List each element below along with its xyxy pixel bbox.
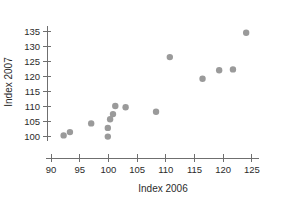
x-tick-label: 125: [244, 164, 260, 175]
x-tick-label: 100: [100, 164, 116, 175]
data-point: [122, 104, 128, 110]
data-point: [67, 129, 73, 135]
x-tick-label: 115: [187, 164, 202, 175]
data-point: [230, 66, 236, 72]
data-point: [167, 54, 173, 60]
y-axis-title: Index 2007: [3, 57, 14, 107]
y-tick-label: 115: [25, 86, 40, 97]
y-tick-label: 110: [25, 101, 40, 112]
x-tick-label: 95: [74, 164, 85, 175]
data-point: [110, 111, 116, 117]
y-tick-label: 135: [24, 26, 40, 37]
y-tick-label: 125: [24, 56, 40, 67]
x-tick-label: 120: [215, 164, 231, 175]
y-tick-label: 130: [24, 41, 40, 52]
data-point: [112, 103, 118, 109]
data-point: [153, 109, 159, 115]
data-point: [105, 133, 111, 139]
scatter-plot-figure: 9095100105110115120125 10010511011512012…: [0, 0, 305, 202]
data-point: [88, 120, 94, 126]
data-points: [60, 30, 249, 140]
data-point: [216, 67, 222, 73]
y-tick-label: 120: [24, 71, 40, 82]
x-tick-label: 90: [46, 164, 57, 175]
data-point: [199, 76, 205, 82]
x-tick-label: 105: [129, 164, 145, 175]
data-point: [60, 132, 66, 138]
y-axis: 100105110115120125130135: [24, 26, 51, 142]
x-axis-title: Index 2006: [138, 183, 188, 194]
y-tick-label: 100: [24, 131, 40, 142]
plot-canvas: 9095100105110115120125 10010511011512012…: [0, 0, 305, 202]
x-axis: 9095100105110115120125: [46, 154, 260, 175]
y-tick-label: 105: [24, 116, 40, 127]
data-point: [105, 125, 111, 131]
x-tick-label: 110: [158, 164, 173, 175]
data-point: [243, 30, 249, 36]
